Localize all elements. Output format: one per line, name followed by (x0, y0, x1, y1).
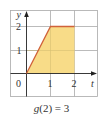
y-tick-1: 1 (17, 45, 22, 56)
caption: g(2) = 3 (0, 102, 103, 114)
y-tick-2: 2 (16, 21, 21, 32)
caption-value: (2) = 3 (39, 102, 69, 114)
y-axis-arrow-icon (24, 11, 29, 17)
t-axis-arrow-icon (91, 71, 97, 76)
x-tick-1: 1 (48, 78, 53, 89)
t-axis-label: t (91, 78, 94, 89)
y-axis-label: y (16, 9, 22, 20)
graph: 0 1 2 2 1 t y (0, 0, 103, 100)
origin-label: 0 (16, 78, 21, 89)
x-tick-2: 2 (72, 78, 77, 89)
